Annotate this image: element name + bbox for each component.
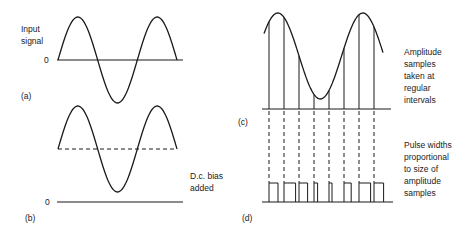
panel-b: 0 D.c. bias added (b) <box>25 106 223 223</box>
sampled-wave <box>264 13 383 99</box>
input-signal-label-2: signal <box>21 36 43 46</box>
pulse-widths-label-1: Pulse widths <box>404 140 452 150</box>
amplitude-samples-label-3: taken at <box>404 71 435 81</box>
dc-bias-label-1: D.c. bias <box>190 171 223 181</box>
amplitude-samples-label-2: samples <box>404 59 436 69</box>
pulse <box>344 183 351 202</box>
pulse <box>284 183 296 202</box>
pulse <box>269 183 278 202</box>
pulse-widths-label-3: to size of <box>404 164 439 174</box>
dc-bias-label-2: added <box>190 183 214 193</box>
sample-lines <box>269 15 374 109</box>
projection-dashes <box>269 111 374 183</box>
pulse <box>299 183 308 202</box>
zero-label-a: 0 <box>44 55 49 65</box>
pulse <box>359 183 371 202</box>
pulse <box>314 183 318 202</box>
panel-tag-d: (d) <box>242 213 253 223</box>
panel-tag-a: (a) <box>21 91 32 101</box>
panel-tag-c: (c) <box>238 117 248 127</box>
zero-label-b: 0 <box>45 197 50 207</box>
amplitude-samples-label-5: intervals <box>404 95 436 105</box>
pulse-widths-label-5: samples <box>404 188 436 198</box>
panel-tag-b: (b) <box>25 213 36 223</box>
pwm-diagram: 0 Input signal (a) 0 D.c. bias added (b)… <box>0 0 474 233</box>
amplitude-samples-label-4: regular <box>404 83 431 93</box>
panel-c: Amplitude samples taken at regular inter… <box>238 13 442 127</box>
pulse <box>374 183 384 202</box>
panel-d: Pulse widths proportional to size of amp… <box>242 111 452 223</box>
panel-a: 0 Input signal (a) <box>21 17 183 103</box>
pulse <box>329 183 332 202</box>
pulse-widths-label-2: proportional <box>404 152 449 162</box>
pulse-widths-label-4: amplitude <box>404 176 441 186</box>
amplitude-samples-label-1: Amplitude <box>404 47 442 57</box>
pulse-train <box>269 183 384 202</box>
input-signal-label-1: Input <box>21 24 41 34</box>
